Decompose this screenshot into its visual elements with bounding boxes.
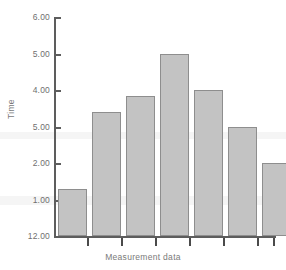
y-tick-label: 5.00: [16, 50, 50, 59]
bar-7: [262, 163, 286, 236]
x-axis-tick: [189, 238, 191, 246]
bar-chart: Time 6.00 5.00 4.00 5.00 2.00 1.00 12.00: [0, 0, 286, 270]
x-axis-title: Measurement data: [0, 252, 286, 262]
plot-area: [54, 17, 276, 237]
x-axis-tick: [257, 238, 259, 246]
bar-4: [160, 54, 189, 237]
y-tick-label: 2.00: [16, 159, 50, 168]
bar-1: [58, 189, 87, 237]
y-tick-label: 6.00: [16, 13, 50, 22]
bar-2: [92, 112, 121, 236]
bar-3: [126, 96, 155, 237]
y-tick-label: 1.00: [16, 196, 50, 205]
y-tick-label: 12.00: [16, 232, 50, 241]
x-axis-tick: [87, 238, 89, 246]
y-tick-label: 5.00: [16, 123, 50, 132]
bar-5: [194, 90, 223, 236]
y-tick-label: 4.00: [16, 86, 50, 95]
x-axis-tick: [121, 238, 123, 246]
y-axis-tick-labels: 6.00 5.00 4.00 5.00 2.00 1.00 12.00: [0, 0, 50, 270]
x-axis-tick: [273, 238, 275, 246]
bar-6: [228, 127, 257, 237]
bar-series: [56, 17, 276, 236]
x-axis-tick: [223, 238, 225, 246]
x-axis-tick: [155, 238, 157, 246]
